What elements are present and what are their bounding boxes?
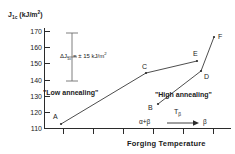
error-bar-equation: = ± 15 kJ/m (71, 53, 104, 59)
y-axis-title-close: ) (40, 11, 42, 18)
point-label-f: F (218, 33, 222, 40)
marker-f (213, 36, 215, 38)
series-markers (60, 36, 215, 125)
alpha-beta-phase-label: α+β (139, 119, 150, 126)
point-label-b: B (148, 104, 153, 111)
y-axis-title-sub: 1c (12, 15, 17, 20)
point-label-e: E (193, 50, 198, 57)
y-tick-label-170: 170 (20, 28, 42, 35)
error-bar-annotation: ΔJ1c = ± 15 kJ/m2 (60, 53, 107, 59)
marker-d (200, 70, 202, 72)
marker-a (60, 123, 62, 125)
chart-figure: J1c (kJ/m2) 170 160 150 140 130 120 110 … (0, 0, 235, 154)
beta-transus-arrow (167, 120, 199, 126)
y-axis-ticks (45, 32, 50, 129)
y-axis-title-sup: 2 (38, 10, 41, 15)
y-axis-title-unit: (kJ/m (17, 11, 37, 18)
y-tick-label-110: 110 (20, 125, 42, 132)
point-label-c: C (142, 63, 147, 70)
high-annealing-label: "High annealing" (155, 91, 212, 98)
low-annealing-label: "Low annealing" (43, 89, 98, 96)
y-tick-label-140: 140 (20, 77, 42, 84)
marker-b (157, 103, 159, 105)
beta-transus-label: Tβ (174, 108, 181, 116)
point-label-a: A (53, 113, 58, 120)
error-bar-delta-sub: 1c (67, 56, 71, 61)
marker-c (145, 72, 147, 74)
point-label-d: D (204, 73, 209, 80)
y-tick-label-160: 160 (20, 44, 42, 51)
marker-e (196, 60, 198, 62)
x-axis-ticks (64, 129, 214, 134)
beta-transus-sub: β (178, 112, 181, 117)
beta-phase-label: β (203, 119, 207, 126)
error-bar-delta: ΔJ (60, 53, 67, 59)
y-tick-label-120: 120 (20, 109, 42, 116)
y-axis-title: J1c (kJ/m2) (8, 11, 43, 19)
error-bar-sup: 2 (104, 51, 106, 56)
y-tick-label-150: 150 (20, 60, 42, 67)
x-axis-title: Forging Temperature (127, 140, 206, 148)
y-tick-label-130: 130 (20, 93, 42, 100)
